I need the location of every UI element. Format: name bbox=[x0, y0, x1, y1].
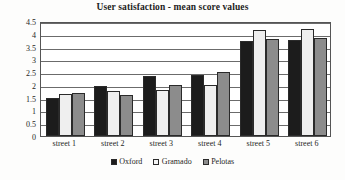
plot-area bbox=[40, 22, 331, 137]
legend-label: Pelotas bbox=[211, 157, 234, 166]
y-axis-tick-label: 0 bbox=[32, 133, 36, 142]
legend-item-oxford[interactable]: Oxford bbox=[111, 157, 143, 166]
bar-oxford-street-2 bbox=[94, 86, 107, 136]
x-axis-tick-label: street 3 bbox=[137, 139, 186, 148]
bar-pelotas-street-4 bbox=[217, 72, 230, 136]
bar-gramado-street-5 bbox=[253, 30, 266, 136]
x-axis-tick-label: street 5 bbox=[234, 139, 283, 148]
chart-legend: OxfordGramadoPelotas bbox=[0, 157, 345, 166]
bar-pelotas-street-6 bbox=[314, 38, 327, 136]
y-axis-tick-label: 2 bbox=[32, 81, 36, 90]
bar-group bbox=[284, 23, 333, 136]
legend-label: Oxford bbox=[119, 157, 142, 166]
y-axis-tick-label: 3 bbox=[32, 56, 36, 65]
bar-pelotas-street-5 bbox=[266, 39, 279, 136]
x-axis: street 1street 2street 3street 4street 5… bbox=[40, 139, 331, 152]
x-axis-tick-label: street 4 bbox=[186, 139, 235, 148]
bar-oxford-street-4 bbox=[191, 75, 204, 136]
bar-gramado-street-3 bbox=[156, 90, 169, 136]
bar-gramado-street-6 bbox=[301, 29, 314, 136]
legend-swatch-icon bbox=[111, 159, 117, 165]
y-axis: 00.511.522.533.544.5 bbox=[6, 22, 38, 137]
bar-pelotas-street-1 bbox=[72, 93, 85, 136]
bar-oxford-street-1 bbox=[46, 98, 59, 136]
bar-group bbox=[90, 23, 139, 136]
bar-oxford-street-3 bbox=[143, 76, 156, 136]
legend-item-pelotas[interactable]: Pelotas bbox=[203, 157, 235, 166]
chart-container: User satisfaction - mean score values 00… bbox=[0, 0, 345, 180]
legend-swatch-icon bbox=[153, 159, 159, 165]
y-axis-tick-label: 0.5 bbox=[26, 120, 36, 129]
bar-group bbox=[41, 23, 90, 136]
legend-item-gramado[interactable]: Gramado bbox=[153, 157, 191, 166]
legend-label: Gramado bbox=[162, 157, 192, 166]
x-axis-tick-label: street 2 bbox=[89, 139, 138, 148]
bar-group bbox=[235, 23, 284, 136]
bar-oxford-street-5 bbox=[240, 41, 253, 136]
y-axis-tick-label: 4 bbox=[32, 30, 36, 39]
y-axis-tick-label: 1.5 bbox=[26, 94, 36, 103]
y-axis-tick-label: 3.5 bbox=[26, 43, 36, 52]
bar-group bbox=[187, 23, 236, 136]
chart-title: User satisfaction - mean score values bbox=[0, 2, 345, 12]
x-axis-tick-label: street 6 bbox=[283, 139, 332, 148]
y-axis-tick-label: 4.5 bbox=[26, 18, 36, 27]
bar-gramado-street-2 bbox=[107, 91, 120, 136]
bar-pelotas-street-3 bbox=[169, 85, 182, 136]
bar-gramado-street-4 bbox=[204, 85, 217, 136]
legend-swatch-icon bbox=[203, 159, 209, 165]
y-axis-tick-label: 1 bbox=[32, 107, 36, 116]
bar-pelotas-street-2 bbox=[120, 95, 133, 136]
bars-layer bbox=[41, 23, 330, 136]
bar-oxford-street-6 bbox=[288, 40, 301, 136]
bar-group bbox=[138, 23, 187, 136]
bar-gramado-street-1 bbox=[59, 94, 72, 136]
y-axis-tick-label: 2.5 bbox=[26, 69, 36, 78]
x-axis-tick-label: street 1 bbox=[40, 139, 89, 148]
